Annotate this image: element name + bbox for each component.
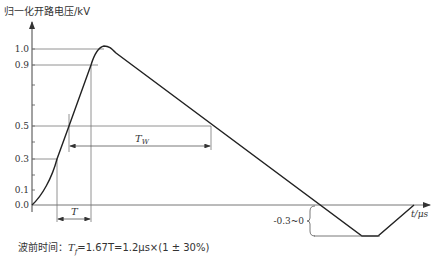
caption-symbol: T (68, 242, 75, 253)
tw-label: TW (135, 133, 150, 146)
caption-prefix: 波前时间： (18, 242, 68, 253)
y-tick-label: 0.3 (15, 154, 30, 164)
y-tick-label: 0.0 (15, 200, 30, 210)
y-tick-label: 0.5 (15, 121, 30, 131)
y-tick-label: 0.9 (15, 60, 30, 70)
reference-lines (32, 49, 211, 222)
caption-front-time: 波前时间：Tf=1.67T=1.2μs×(1 ± 30%) (18, 239, 209, 256)
y-tick-label: 0.1 (15, 185, 29, 195)
undershoot-label: -0.3~0 (273, 216, 304, 226)
t-label: T (71, 206, 79, 217)
caption-formula: =1.67T=1.2μs×(1 ± 30%) (77, 242, 209, 253)
y-tick-label: 1.0 (15, 44, 30, 54)
x-axis-title: t/μs (411, 209, 428, 219)
undershoot-brace (307, 206, 315, 236)
waveform-curve (32, 46, 414, 236)
y-axis-title: 归一化开路电压/kV (4, 5, 90, 17)
